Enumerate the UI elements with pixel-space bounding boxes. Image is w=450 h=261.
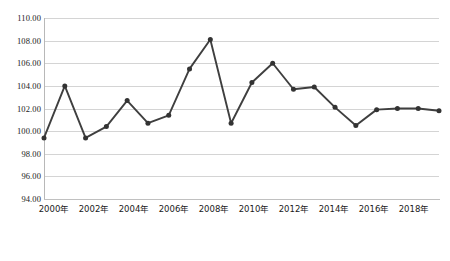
data-point [353, 123, 358, 128]
data-point [145, 121, 150, 126]
data-point [166, 113, 171, 118]
data-point [416, 106, 421, 111]
data-point [437, 108, 442, 113]
data-point [62, 83, 67, 88]
series-line [44, 39, 439, 137]
data-point [291, 87, 296, 92]
data-point [187, 66, 192, 71]
data-point [270, 61, 275, 66]
series-markers [42, 37, 442, 140]
data-point [125, 98, 130, 103]
data-point [249, 80, 254, 85]
data-point [42, 135, 47, 140]
data-point [333, 105, 338, 110]
line-chart: 110.00 108.00 106.00 104.00 102.00 100.0… [0, 0, 450, 261]
data-point [83, 135, 88, 140]
data-point [374, 107, 379, 112]
data-point [104, 124, 109, 129]
data-point [312, 85, 317, 90]
data-point [395, 106, 400, 111]
data-series-layer [0, 0, 450, 261]
data-point [208, 37, 213, 42]
data-point [229, 121, 234, 126]
